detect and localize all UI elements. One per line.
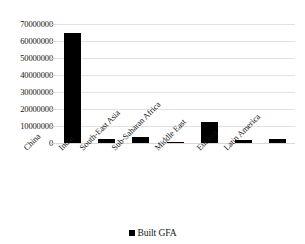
bar-chart: 70000000 60000000 50000000 40000000 3000… — [0, 0, 305, 244]
bar-latin-america — [269, 139, 286, 143]
bar-south-east-asia — [132, 137, 149, 143]
y-axis-tick-label: 60000000 — [0, 37, 53, 46]
bar-china — [64, 33, 81, 143]
legend: Built GFA — [0, 228, 305, 238]
legend-label-built-gfa: Built GFA — [138, 228, 177, 238]
y-axis-tick-label: 40000000 — [0, 71, 53, 80]
x-axis: China India South-East Asia Sub-Saharan … — [0, 146, 305, 208]
y-axis-tick-label: 30000000 — [0, 88, 53, 97]
y-axis-tick-label: 50000000 — [0, 54, 53, 63]
y-axis-tick-label: 10000000 — [0, 122, 53, 131]
y-axis-tick-label: 70000000 — [0, 20, 53, 29]
legend-swatch-icon — [129, 230, 135, 236]
y-axis-tick-label: 20000000 — [0, 105, 53, 114]
